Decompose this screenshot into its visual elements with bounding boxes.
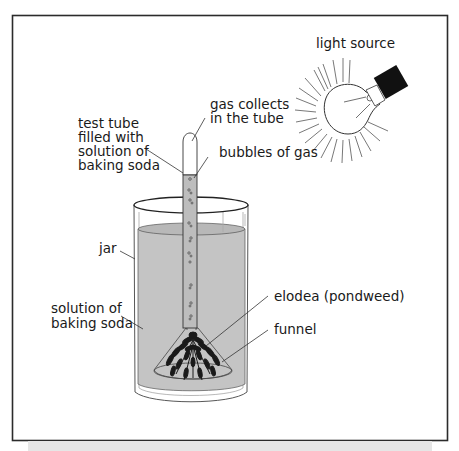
label-bubbles-of-gas: bubbles of gas xyxy=(219,144,318,160)
label-gas-collects-line2: in the tube xyxy=(210,110,284,126)
label-solution-line2: baking soda xyxy=(51,315,133,331)
label-light-source: light source xyxy=(316,35,395,51)
label-solution-line1: solution of xyxy=(51,300,123,316)
frame-shadow xyxy=(28,441,432,451)
label-funnel: funnel xyxy=(274,321,316,337)
test-tube xyxy=(183,133,197,328)
label-jar: jar xyxy=(98,240,117,256)
experiment-diagram: light source gas collects in the tube te… xyxy=(0,0,459,451)
label-elodea: elodea (pondweed) xyxy=(274,288,404,304)
diagram-canvas: light source gas collects in the tube te… xyxy=(0,0,459,451)
label-test-tube-line4: baking soda xyxy=(78,157,160,173)
collected-gas xyxy=(183,133,197,175)
